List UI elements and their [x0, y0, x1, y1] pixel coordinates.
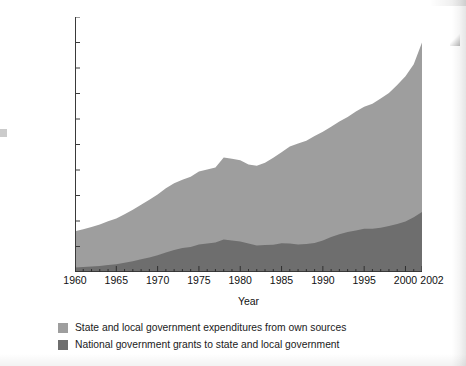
x-tick-label: 1965 [105, 274, 128, 286]
page-edge-artifact-left [0, 129, 7, 137]
x-tick-label: 1990 [311, 274, 334, 286]
x-tick-label: 1980 [229, 274, 252, 286]
x-tick-label: 1975 [187, 274, 210, 286]
x-tick-label: 1995 [353, 274, 376, 286]
x-tick-label: 2002 [420, 274, 443, 286]
area-series-group [75, 43, 422, 273]
legend-item: State and local government expenditures … [58, 320, 438, 335]
page-edge-artifact-top-right [430, 0, 466, 6]
page-shade-bottom [0, 354, 466, 366]
legend-item: National government grants to state and … [58, 337, 438, 352]
page-shade-right [452, 0, 466, 366]
legend-label: National government grants to state and … [75, 339, 339, 350]
legend-swatch-icon [58, 323, 68, 333]
chart-plot-svg [75, 17, 422, 272]
chart-page: Expenditures in billions of constant (19… [0, 0, 466, 366]
x-tick-label: 1970 [146, 274, 169, 286]
x-axis-tick-labels: 1960196519701975198019851990199520002002 [75, 274, 422, 290]
legend-label: State and local government expenditures … [75, 322, 346, 333]
stacked-area-chart: 1960196519701975198019851990199520002002… [75, 17, 422, 272]
page-edge-artifact-corner [450, 34, 460, 46]
x-axis-title: Year [75, 295, 422, 307]
x-tick-label: 2000 [394, 274, 417, 286]
chart-legend: State and local government expenditures … [58, 320, 438, 354]
legend-swatch-icon [58, 340, 68, 350]
x-tick-label: 1985 [270, 274, 293, 286]
x-tick-label: 1960 [63, 274, 86, 286]
